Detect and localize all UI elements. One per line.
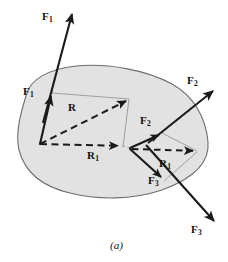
label-f2-outer: F2 (187, 75, 197, 86)
label-f3-outer: F3 (191, 224, 201, 235)
label-r-resultant: R (68, 102, 76, 113)
application-point-a (39, 143, 41, 145)
application-point-b (129, 147, 131, 149)
label-f3-inner: F3 (148, 175, 158, 186)
force-resultant-figure: F1 F1 R R1 F2 F2 R1 F3 F3 (a) (0, 0, 228, 262)
label-f1-outer: F1 (42, 11, 52, 22)
rigid-body-shape (18, 65, 208, 198)
label-f2-inner: F2 (140, 115, 150, 126)
figure-caption: (a) (110, 240, 123, 251)
label-r1-left: R1 (87, 150, 99, 161)
label-r1-right: R1 (159, 158, 171, 169)
label-f1-inner: F1 (23, 86, 33, 97)
